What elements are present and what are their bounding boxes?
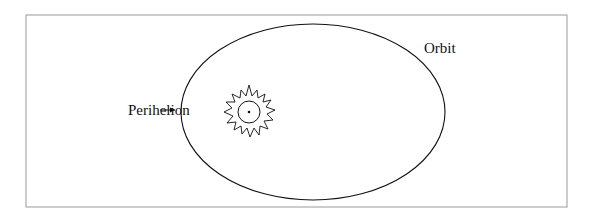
orbit-diagram: Perihelion Orbit bbox=[0, 0, 592, 216]
diagram-frame bbox=[26, 15, 567, 207]
perihelion-label: Perihelion bbox=[128, 102, 190, 118]
orbit-label: Orbit bbox=[424, 40, 456, 56]
